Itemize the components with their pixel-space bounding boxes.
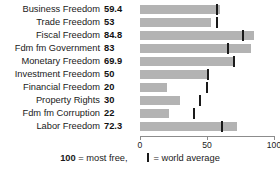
chart-row: Property Rights30 <box>0 94 280 107</box>
world-average-marker <box>221 121 223 132</box>
row-value-label: 22 <box>104 107 114 120</box>
chart-row: Trade Freedom53 <box>0 16 280 29</box>
row-category-label: Trade Freedom <box>36 16 100 29</box>
axis-tick-label: 50 <box>202 141 212 150</box>
world-average-marker <box>199 95 201 106</box>
legend-world-average-text: = world average <box>153 153 219 163</box>
chart-row: Business Freedom59.4 <box>0 3 280 16</box>
row-bar-track <box>140 3 274 16</box>
row-bar-track <box>140 42 274 55</box>
chart-rows: Business Freedom59.4Trade Freedom53Fisca… <box>0 3 280 133</box>
row-value-label: 69.9 <box>104 55 122 68</box>
row-category-label: Fiscal Freedom <box>36 29 100 42</box>
row-bar <box>140 5 220 14</box>
row-bar-track <box>140 55 274 68</box>
row-bar-track <box>140 94 274 107</box>
row-value-label: 53 <box>104 16 114 29</box>
freedom-index-bar-chart: Business Freedom59.4Trade Freedom53Fisca… <box>0 0 280 175</box>
row-bar <box>140 57 234 66</box>
row-bar-track <box>140 16 274 29</box>
row-value-label: 20 <box>104 81 114 94</box>
row-value-label: 30 <box>104 94 114 107</box>
row-category-label: Investment Freedom <box>15 68 100 81</box>
chart-row: Fiscal Freedom84.8 <box>0 29 280 42</box>
chart-row: Fdm fm Corruption22 <box>0 107 280 120</box>
row-bar <box>140 70 207 79</box>
row-bar <box>140 18 211 27</box>
world-average-marker <box>216 4 218 15</box>
legend-most-free-value: 100 <box>60 153 76 163</box>
row-category-label: Fdm fm Corruption <box>23 107 101 120</box>
world-average-marker <box>242 30 244 41</box>
row-bar <box>140 96 180 105</box>
world-average-marker <box>206 82 208 93</box>
row-bar <box>140 31 254 40</box>
row-category-label: Fdm fm Government <box>15 42 100 55</box>
row-bar-track <box>140 81 274 94</box>
world-average-marker <box>207 69 209 80</box>
row-bar-track <box>140 120 274 133</box>
axis-tick-label: 100 <box>267 141 280 150</box>
row-bar-track <box>140 107 274 120</box>
row-bar-track <box>140 29 274 42</box>
chart-row: Fdm fm Government83 <box>0 42 280 55</box>
row-bar <box>140 109 169 118</box>
row-value-label: 84.8 <box>104 29 122 42</box>
world-average-marker <box>227 43 229 54</box>
world-average-marker <box>216 17 218 28</box>
world-average-marker <box>193 108 195 119</box>
row-value-label: 50 <box>104 68 114 81</box>
row-bar <box>140 44 251 53</box>
chart-row: Investment Freedom50 <box>0 68 280 81</box>
row-bar-track <box>140 68 274 81</box>
chart-row: Labor Freedom72.3 <box>0 120 280 133</box>
legend-most-free-text: = most free, <box>78 153 127 163</box>
chart-legend: 100 = most free, = world average <box>0 152 280 164</box>
row-bar <box>140 83 167 92</box>
row-category-label: Labor Freedom <box>36 120 100 133</box>
row-category-label: Financial Freedom <box>23 81 100 94</box>
row-category-label: Property Rights <box>36 94 100 107</box>
row-value-label: 59.4 <box>104 3 122 16</box>
world-average-marker-icon <box>147 153 149 162</box>
chart-row: Financial Freedom20 <box>0 81 280 94</box>
row-value-label: 72.3 <box>104 120 122 133</box>
row-category-label: Business Freedom <box>22 3 100 16</box>
row-value-label: 83 <box>104 42 114 55</box>
row-category-label: Monetary Freedom <box>21 55 100 68</box>
chart-row: Monetary Freedom69.9 <box>0 55 280 68</box>
world-average-marker <box>233 56 235 67</box>
axis-tick-label: 0 <box>138 141 143 150</box>
